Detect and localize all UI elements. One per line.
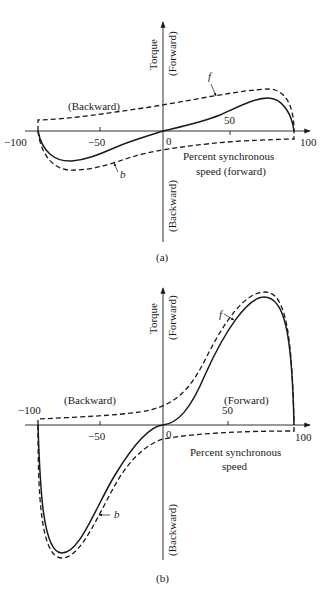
- region-label-backward: (Backward): [68, 100, 120, 113]
- x-axis-label-line1: Percent synchronous: [190, 446, 281, 458]
- y-positive-label: (Forward): [166, 31, 179, 76]
- y-axis-label-torque: Torque: [147, 39, 159, 70]
- tick-label-p100: 100: [300, 136, 317, 148]
- curve-b-label: b: [114, 508, 120, 520]
- caption-b: (b): [156, 572, 169, 585]
- tick-label-zero: 0: [166, 135, 172, 147]
- tick-label-m100: −100: [18, 404, 41, 416]
- y-negative-label: (Backward): [166, 180, 179, 232]
- curve-f-label: f: [219, 308, 224, 320]
- tick-label-zero: 0: [166, 428, 172, 440]
- x-axis-label-line2: speed: [222, 460, 248, 472]
- curve-f-pointer: [211, 84, 216, 96]
- tick-label-m50: −50: [88, 136, 106, 148]
- tick-label-p100: 100: [295, 431, 312, 443]
- tick-label-m50: −50: [88, 430, 106, 442]
- region-label-backward: (Backward): [64, 394, 116, 407]
- region-label-forward: (Forward): [224, 394, 269, 407]
- figure-a: f b −100 −50 0 50 100 (Backward) Percent…: [4, 22, 317, 264]
- figure-canvas: f b −100 −50 0 50 100 (Backward) Percent…: [0, 0, 328, 597]
- tick-label-m100: −100: [4, 136, 27, 148]
- x-axis-label-line2: speed (forward): [196, 165, 266, 178]
- curve-b-label: b: [120, 168, 126, 180]
- y-positive-label: (Forward): [166, 295, 179, 340]
- y-negative-label: (Backward): [166, 504, 179, 556]
- tick-label-p50: 50: [224, 114, 236, 126]
- figure-b: f b −100 −50 0 50 100 (Backward) (Forwar…: [18, 288, 312, 585]
- caption-a: (a): [156, 251, 169, 264]
- y-axis-label-torque: Torque: [147, 303, 159, 334]
- x-axis-label-line1: Percent synchronous: [183, 150, 274, 162]
- curve-b-pointer: [114, 163, 118, 172]
- curve-f-label: f: [208, 70, 213, 82]
